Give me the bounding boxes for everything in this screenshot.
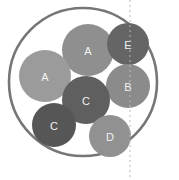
circle-node-b-3[interactable]: B: [106, 64, 150, 108]
diagram-canvas: AEABCCD: [0, 0, 179, 180]
node-label: D: [106, 131, 114, 143]
node-label: A: [84, 45, 92, 57]
node-label: B: [124, 81, 132, 93]
circle-node-d-6[interactable]: D: [89, 115, 131, 157]
node-label: E: [124, 39, 132, 51]
node-label: A: [41, 71, 49, 83]
circle-node-e-1[interactable]: E: [107, 23, 149, 65]
node-label: C: [50, 120, 58, 132]
node-label: C: [82, 95, 90, 107]
packed-circle-diagram: AEABCCD: [0, 0, 179, 180]
circle-node-c-5[interactable]: C: [32, 103, 76, 147]
